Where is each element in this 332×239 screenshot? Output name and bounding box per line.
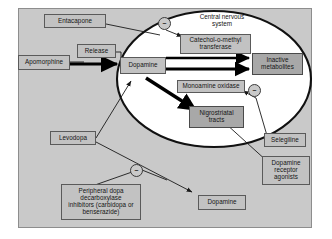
node-dopamine-peripheral-label: Dopamine [207, 199, 236, 206]
node-dopamine-peripheral[interactable]: Dopamine [198, 195, 246, 210]
diagram-canvas: – – – Central nervous system Entacapone … [0, 0, 332, 239]
node-inactive-metabolites[interactable]: Inactive metabolites [252, 53, 303, 75]
node-dopamine-cns-label: Dopamine [128, 62, 157, 69]
minus-marker-mao: – [248, 84, 261, 97]
node-mao-label: Monoamine oxidase [182, 83, 239, 90]
node-dra-label-line3: agonists [274, 174, 298, 181]
node-apomorphine[interactable]: Apomorphine [18, 55, 70, 70]
node-inactive-label-line2: metabolites [261, 64, 294, 71]
node-release-label: Release [85, 48, 108, 55]
node-levodopa[interactable]: Levodopa [50, 131, 96, 145]
cns-title-line2: system [212, 20, 232, 27]
node-apomorphine-label: Apomorphine [25, 59, 63, 66]
minus-marker-peripheral: – [130, 164, 143, 177]
node-entacapone[interactable]: Entacapone [44, 14, 106, 28]
node-comt-label-line2: transferase [199, 44, 231, 51]
node-nigrostriatal-label-line2: tracts [209, 117, 225, 124]
node-pdi-label-line4: benserazide) [82, 209, 119, 216]
node-dopamine-cns[interactable]: Dopamine [120, 57, 166, 74]
node-dopamine-receptor-agonists[interactable]: Dopamine receptor agonists [262, 156, 310, 185]
node-levodopa-label: Levodopa [59, 135, 87, 142]
cns-title-line1: Central nervous [200, 13, 244, 20]
node-selegiline-label: Selegiline [271, 137, 299, 144]
node-comt[interactable]: Catechol-o-methyl transferase [180, 34, 251, 54]
node-entacapone-label: Entacapone [58, 18, 92, 25]
node-release[interactable]: Release [77, 44, 116, 58]
node-monoamine-oxidase[interactable]: Monoamine oxidase [177, 80, 245, 93]
node-selegiline[interactable]: Selegiline [264, 133, 306, 147]
minus-marker-comt: – [158, 17, 171, 30]
node-peripheral-dopa-decarboxylase-inhibitors[interactable]: Peripheral dopa decarboxylase inhibitors… [61, 184, 141, 220]
cns-title-label: Central nervous system [176, 13, 268, 27]
node-nigrostriatal-tracts[interactable]: Nigrostriatal tracts [189, 106, 244, 128]
